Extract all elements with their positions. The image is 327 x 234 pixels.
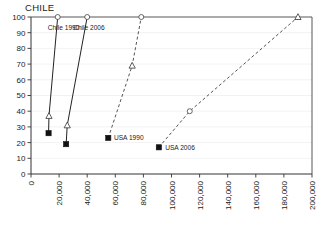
data-marker-circle <box>55 15 60 20</box>
series-label: USA 2006 <box>165 144 195 151</box>
data-marker-triangle <box>129 62 135 68</box>
x-tick-label: 120,000 <box>196 180 205 209</box>
y-tick-label: 90 <box>17 29 26 38</box>
x-tick-label: 20,000 <box>55 180 64 205</box>
y-tick-label: 10 <box>17 154 26 163</box>
x-tick-label: 140,000 <box>224 180 233 209</box>
y-tick-label: 60 <box>17 76 26 85</box>
y-tick-label: 0 <box>21 170 26 179</box>
x-tick-label: 160,000 <box>252 180 261 209</box>
x-tick-label: 0 <box>27 180 36 185</box>
data-marker-square <box>46 131 51 136</box>
data-marker-square <box>106 135 111 140</box>
data-marker-circle <box>139 15 144 20</box>
series-annotations-layer: Chile 1990Chile 2006USA 1990USA 2006 <box>48 24 195 150</box>
y-tick-label: 100 <box>12 13 26 22</box>
data-marker-square <box>64 142 69 147</box>
x-tick-label: 80,000 <box>139 180 148 205</box>
x-axis-tick-labels: 020,00040,00060,00080,000100,000120,0001… <box>27 180 317 209</box>
x-tick-label: 60,000 <box>111 180 120 205</box>
y-tick-label: 70 <box>17 60 26 69</box>
x-tick-label: 40,000 <box>83 180 92 205</box>
data-marker-square <box>156 145 161 150</box>
chart-container: CHILE 0102030405060708090100 020,00040,0… <box>0 0 327 234</box>
chart-plot-area: 0102030405060708090100 020,00040,00060,0… <box>0 0 327 234</box>
x-tick-label: 180,000 <box>280 180 289 209</box>
x-tick-label: 100,000 <box>168 180 177 209</box>
series-label: Chile 2006 <box>73 24 105 31</box>
data-marker-circle <box>85 15 90 20</box>
y-axis-tick-labels: 0102030405060708090100 <box>12 13 26 179</box>
x-tick-label: 200,000 <box>308 180 317 209</box>
data-series-layer <box>49 17 298 147</box>
series-line <box>108 17 141 138</box>
data-marker-circle <box>187 109 192 114</box>
y-tick-label: 50 <box>17 91 26 100</box>
data-marker-triangle <box>46 113 52 119</box>
data-marker-triangle <box>64 122 70 128</box>
axis-ticks <box>28 17 313 178</box>
y-tick-label: 20 <box>17 139 26 148</box>
y-tick-label: 40 <box>17 107 26 116</box>
series-label: USA 1990 <box>114 134 144 141</box>
series-line <box>159 17 298 147</box>
y-tick-label: 80 <box>17 44 26 53</box>
y-tick-label: 30 <box>17 123 26 132</box>
